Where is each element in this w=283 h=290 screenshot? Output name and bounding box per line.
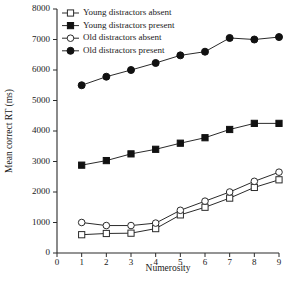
y-tick-label: 8000 xyxy=(32,3,51,13)
y-axis-title: Mean correct RT (ms) xyxy=(4,89,15,173)
data-point-open-circle xyxy=(276,169,283,176)
x-tick-label: 8 xyxy=(252,257,257,267)
data-point-filled-square xyxy=(103,157,109,163)
line-chart: 0100020003000400050006000700080000123456… xyxy=(0,0,283,290)
data-point-open-circle xyxy=(152,220,159,227)
data-point-open-circle xyxy=(251,178,258,185)
x-tick-label: 7 xyxy=(227,257,232,267)
data-point-filled-circle xyxy=(177,52,184,59)
data-point-filled-square xyxy=(227,126,233,132)
data-point-open-circle xyxy=(177,207,184,214)
y-tick-label: 0 xyxy=(46,247,51,257)
y-tick-label: 1000 xyxy=(32,217,51,227)
x-tick-label: 1 xyxy=(79,257,84,267)
data-point-filled-circle xyxy=(152,59,159,66)
x-tick-label: 6 xyxy=(203,257,208,267)
y-tick-label: 3000 xyxy=(32,156,51,166)
data-point-open-square xyxy=(227,195,233,201)
data-point-filled-circle xyxy=(128,67,135,74)
data-point-filled-circle xyxy=(202,48,209,55)
y-tick-label: 7000 xyxy=(32,34,51,44)
legend-marker-filled-square xyxy=(67,23,73,29)
legend-label: Young distractors present xyxy=(83,20,175,30)
data-point-filled-square xyxy=(153,146,159,152)
data-point-open-square xyxy=(128,230,134,236)
data-point-filled-circle xyxy=(226,34,233,41)
y-tick-label: 6000 xyxy=(32,64,51,74)
data-point-open-square xyxy=(202,204,208,210)
legend-marker-open-square xyxy=(67,10,73,16)
data-point-filled-square xyxy=(276,120,282,126)
data-point-open-square xyxy=(276,177,282,183)
data-point-open-square xyxy=(103,230,109,236)
data-point-open-circle xyxy=(128,222,135,229)
data-point-open-square xyxy=(79,232,85,238)
data-point-filled-circle xyxy=(103,73,110,80)
data-point-open-circle xyxy=(103,222,110,229)
x-tick-label: 0 xyxy=(55,257,60,267)
legend-marker-open-circle xyxy=(67,35,74,42)
data-point-filled-square xyxy=(177,140,183,146)
legend-label: Old distractors present xyxy=(83,45,165,55)
x-tick-label: 3 xyxy=(129,257,134,267)
x-tick-label: 2 xyxy=(104,257,109,267)
x-tick-label: 9 xyxy=(277,257,282,267)
x-axis-title: Numerosity xyxy=(146,263,191,273)
data-point-filled-square xyxy=(128,151,134,157)
data-point-filled-circle xyxy=(276,34,283,41)
data-point-filled-square xyxy=(251,120,257,126)
legend-label: Young distractors absent xyxy=(83,7,172,17)
data-point-filled-square xyxy=(202,135,208,141)
data-point-filled-circle xyxy=(78,82,85,89)
legend-label: Old distractors absent xyxy=(83,32,162,42)
data-point-open-square xyxy=(251,184,257,190)
y-tick-label: 2000 xyxy=(32,186,51,196)
data-point-filled-square xyxy=(79,162,85,168)
legend-marker-filled-circle xyxy=(67,47,74,54)
data-point-open-circle xyxy=(226,189,233,196)
data-point-filled-circle xyxy=(251,36,258,43)
y-tick-label: 4000 xyxy=(32,125,51,135)
data-point-open-circle xyxy=(78,219,85,226)
y-tick-label: 5000 xyxy=(32,95,51,105)
data-point-open-circle xyxy=(202,198,209,205)
chart-container: 0100020003000400050006000700080000123456… xyxy=(0,0,283,290)
